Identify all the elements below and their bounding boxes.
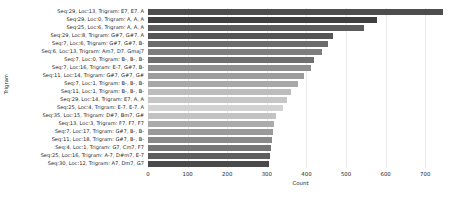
bar-fill (148, 33, 333, 39)
bar (148, 153, 270, 159)
y-tick-label: Seq:4, Loc:1, Trigram: G7, Cm7, F7 (55, 145, 144, 150)
bar (148, 97, 287, 103)
bar-fill (148, 73, 304, 79)
bar (148, 105, 283, 111)
bar (148, 73, 304, 79)
bar-layer (148, 8, 453, 168)
bar-fill (148, 145, 271, 151)
bar-fill (148, 81, 298, 87)
bar (148, 65, 311, 71)
bar (148, 113, 276, 119)
bar-fill (148, 161, 269, 167)
y-tick-label: Seq:7, Loc:16, Trigram: E-7, G#7, B- (52, 65, 144, 70)
y-tick-label: Seq:13, Loc:3, Trigram: F7, F7, F7 (58, 121, 144, 126)
bar (148, 145, 271, 151)
x-axis-label: Count (148, 180, 453, 186)
plot-area (148, 8, 453, 168)
bar-fill (148, 129, 273, 135)
bar (148, 129, 273, 135)
x-axis: Count 0100200300400500600700 (148, 168, 453, 198)
y-tick-label: Seq:7, Loc:6, Trigram: G#7, G#7, B- (52, 41, 144, 46)
bar (148, 33, 333, 39)
y-tick-label: Seq:7, Loc:1, Trigram: B-, B-, B- (64, 81, 144, 86)
bar-fill (148, 153, 270, 159)
x-tick-label: 500 (341, 171, 351, 177)
y-tick-label: Seq:29, Loc:0, Trigram: A, A, A (67, 17, 144, 22)
bar (148, 89, 291, 95)
bar-fill (148, 25, 364, 31)
y-tick-label: Seq:25, Loc:4, Trigram: E-7, E-7, A (57, 105, 144, 110)
bar-fill (148, 121, 274, 127)
bar-fill (148, 105, 283, 111)
bar-fill (148, 41, 328, 47)
y-tick-label: Seq:7, Loc:17, Trigram: G#7, B-, B- (55, 129, 144, 134)
bar (148, 25, 364, 31)
bar (148, 81, 298, 87)
bar-fill (148, 57, 314, 63)
bar-fill (148, 49, 322, 55)
x-tick-label: 600 (381, 171, 391, 177)
y-tick-label-layer: Seq:29, Loc:13, Trigram: E7, E7, ASeq:29… (10, 8, 146, 168)
y-tick-label: Seq:29, Loc:14, Trigram: E7, A, A (60, 97, 144, 102)
bar (148, 41, 328, 47)
x-tick-label: 300 (262, 171, 272, 177)
bar-fill (148, 17, 377, 23)
bar-fill (148, 97, 287, 103)
x-tick-label: 100 (182, 171, 192, 177)
x-tick-label: 200 (222, 171, 232, 177)
bar-fill (148, 89, 291, 95)
y-tick-label: Seq:25, Loc:6, Trigram: A, A, A (67, 25, 144, 30)
bar-fill (148, 137, 272, 143)
y-tick-label: Seq:35, Loc:15, Trigram: D#7, Bm7, G# (42, 113, 144, 118)
y-tick-label: Seq:11, Loc:1, Trigram: B-, B-, B- (61, 89, 144, 94)
bar (148, 161, 269, 167)
bar (148, 49, 322, 55)
bar (148, 17, 377, 23)
bar-chart-figure: Trigram Seq:29, Loc:13, Trigram: E7, E7,… (0, 0, 465, 198)
bar-fill (148, 113, 276, 119)
x-tick-label: 0 (146, 171, 149, 177)
y-tick-label: Seq:29, Loc:8, Trigram: G#7, G#7, A (51, 33, 144, 38)
bar-fill (148, 65, 311, 71)
x-tick-label: 700 (420, 171, 430, 177)
x-tick-label: 400 (301, 171, 311, 177)
bar (148, 9, 443, 15)
bar (148, 57, 314, 63)
y-tick-label: Seq:7, Loc:0, Trigram: B-, B-, B- (64, 57, 144, 62)
bar (148, 137, 272, 143)
y-tick-label: Seq:29, Loc:13, Trigram: E7, E7, A (57, 9, 144, 14)
y-tick-label: Seq:25, Loc:16, Trigram: A-7, D#m7, E-7 (41, 153, 144, 158)
y-tick-label: Seq:30, Loc:12, Trigram: A7, Dm7, G7 (48, 161, 144, 166)
y-axis-label-text: Trigram (3, 74, 9, 94)
y-tick-label: Seq:6, Loc:13, Trigram: Am7, D7, Gmaj7 (41, 49, 144, 54)
y-tick-label: Seq:11, Loc:14, Trigram: G#7, G#7, G# (43, 73, 144, 78)
y-tick-label: Seq:11, Loc:18, Trigram: G#7, B-, B- (52, 137, 144, 142)
bar-fill (148, 9, 443, 15)
bar (148, 121, 274, 127)
